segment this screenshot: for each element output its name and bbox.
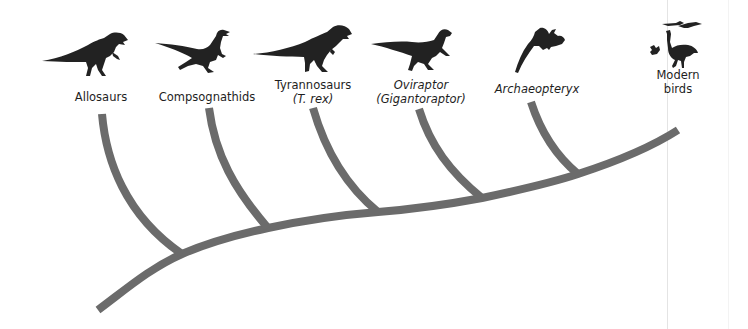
label-allosaurs-line1: Allosaurs: [75, 90, 127, 104]
compsognathus-silhouette-icon: [155, 30, 230, 73]
label-tyrannosaurs-line2: (T. rex): [275, 92, 351, 106]
oviraptor-silhouette-icon: [371, 29, 452, 71]
branch-compsognathids: [209, 108, 268, 228]
label-allosaurs: Allosaurs: [75, 90, 127, 104]
label-oviraptor-line2: (Gigantoraptor): [376, 92, 466, 106]
label-tyrannosaurs-line1: Tyrannosaurs: [275, 78, 351, 92]
label-compsognathids: Compsognathids: [159, 90, 256, 104]
branch-archaeopteryx: [531, 102, 578, 174]
cladogram-diagram: Allosaurs Compsognathids Tyrannosaurs (T…: [0, 0, 748, 329]
label-modern-birds: Modern birds: [656, 68, 699, 96]
label-modern-birds-line2: birds: [656, 82, 699, 96]
label-archaeopteryx: Archaeopteryx: [495, 82, 580, 96]
label-oviraptor: Oviraptor (Gigantoraptor): [376, 78, 466, 106]
allosaurus-silhouette-icon: [42, 33, 128, 76]
tree-graphic: [0, 0, 748, 329]
label-tyrannosaurs: Tyrannosaurs (T. rex): [275, 78, 351, 106]
label-archaeopteryx-line1: Archaeopteryx: [495, 82, 580, 96]
branch-tyrannosaurs: [313, 108, 378, 212]
modern-birds-silhouette-icon: [650, 21, 702, 68]
tyrannosaurus-silhouette-icon: [253, 25, 352, 72]
label-oviraptor-line1: Oviraptor: [376, 78, 466, 92]
branch-oviraptor: [419, 109, 482, 198]
branch-allosaurs: [102, 114, 182, 254]
archaeopteryx-silhouette-icon: [515, 28, 565, 73]
label-modern-birds-line1: Modern: [656, 68, 699, 82]
label-compsognathids-line1: Compsognathids: [159, 90, 256, 104]
trunk-branch: [98, 130, 678, 310]
